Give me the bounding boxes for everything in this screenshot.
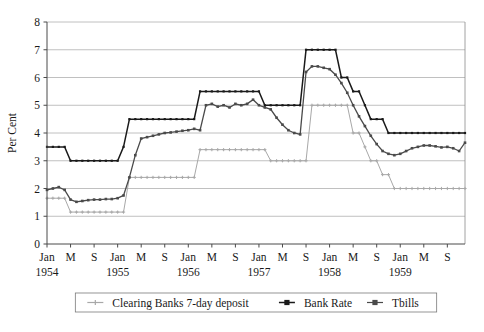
- series-marker-1: [458, 132, 460, 134]
- series-marker-1: [64, 146, 66, 148]
- series-marker-2: [275, 116, 278, 119]
- series-marker-2: [317, 65, 320, 68]
- gridlines: [47, 22, 465, 216]
- x-tick-label: Jan: [251, 251, 267, 263]
- y-tick-label: 0: [34, 238, 40, 250]
- series-marker-1: [299, 104, 301, 106]
- series-marker-2: [399, 153, 402, 156]
- series-marker-1: [270, 104, 272, 106]
- series-marker-2: [199, 129, 202, 132]
- x-year-label: 1959: [389, 266, 412, 278]
- series-marker-1: [111, 160, 113, 162]
- series-marker-2: [116, 197, 119, 200]
- series-marker-1: [128, 118, 130, 120]
- series-marker-1: [358, 90, 360, 92]
- series-marker-1: [58, 146, 60, 148]
- series-marker-2: [293, 132, 296, 135]
- series-marker-2: [81, 200, 84, 203]
- series-marker-2: [128, 176, 131, 179]
- series-marker-1: [99, 160, 101, 162]
- y-tick-label: 4: [34, 127, 40, 139]
- series-marker-2: [428, 144, 431, 147]
- series-marker-1: [246, 90, 248, 92]
- series-marker-2: [93, 198, 96, 201]
- series-marker-2: [405, 150, 408, 153]
- series-marker-2: [381, 150, 384, 153]
- series-marker-1: [217, 90, 219, 92]
- series-marker-2: [393, 154, 396, 157]
- series-marker-1: [434, 132, 436, 134]
- legend-swatch-marker: [284, 300, 289, 305]
- x-tick-label: S: [91, 251, 97, 263]
- series-marker-1: [228, 90, 230, 92]
- series-marker-2: [440, 146, 443, 149]
- series-marker-2: [216, 105, 219, 108]
- series-marker-1: [158, 118, 160, 120]
- series-marker-2: [364, 125, 367, 128]
- series-marker-1: [317, 49, 319, 51]
- legend-item-label: Tbills: [392, 297, 419, 309]
- series-marker-2: [158, 133, 161, 136]
- x-tick-label: Jan: [322, 251, 338, 263]
- series-line-2: [47, 66, 465, 201]
- series-marker-2: [75, 201, 78, 204]
- series-line-0: [47, 105, 465, 212]
- series-marker-2: [240, 104, 243, 107]
- x-tick-label: M: [419, 251, 429, 263]
- x-axis: Jan1954MSJan1955MSJan1956MSJan1957MSJan1…: [36, 244, 466, 278]
- series-marker-2: [69, 198, 72, 201]
- series-marker-1: [69, 160, 71, 162]
- series-marker-2: [422, 144, 425, 147]
- series-marker-1: [381, 118, 383, 120]
- series-marker-2: [264, 106, 267, 109]
- series-marker-2: [328, 68, 331, 71]
- series-marker-2: [258, 104, 261, 107]
- y-tick-label: 7: [34, 44, 40, 56]
- line-chart: 012345678 Jan1954MSJan1955MSJan1956MSJan…: [0, 0, 484, 332]
- x-tick-label: S: [303, 251, 309, 263]
- series-marker-2: [181, 129, 184, 132]
- series-marker-1: [164, 118, 166, 120]
- series-marker-1: [234, 90, 236, 92]
- legend-item[interactable]: Clearing Banks 7-day deposit: [87, 297, 249, 310]
- series-marker-1: [187, 118, 189, 120]
- series-marker-1: [405, 132, 407, 134]
- series-marker-2: [228, 106, 231, 109]
- series-marker-1: [423, 132, 425, 134]
- series-marker-2: [140, 137, 143, 140]
- series-marker-1: [334, 49, 336, 51]
- series-marker-2: [146, 136, 149, 139]
- x-year-label: 1956: [177, 266, 200, 278]
- series-marker-1: [193, 118, 195, 120]
- series-marker-2: [175, 130, 178, 133]
- series-marker-1: [323, 49, 325, 51]
- series-marker-1: [175, 118, 177, 120]
- series-marker-1: [75, 160, 77, 162]
- series-marker-1: [252, 90, 254, 92]
- series-marker-2: [252, 98, 255, 101]
- series-marker-2: [311, 65, 314, 68]
- series-marker-2: [370, 134, 373, 137]
- x-tick-label: S: [162, 251, 168, 263]
- series-marker-1: [52, 146, 54, 148]
- series-marker-2: [322, 66, 325, 69]
- series-marker-1: [387, 132, 389, 134]
- series-marker-2: [281, 123, 284, 126]
- series-marker-1: [117, 160, 119, 162]
- series-marker-2: [152, 134, 155, 137]
- series-marker-2: [340, 82, 343, 85]
- series-layer: [45, 49, 466, 214]
- series-marker-2: [187, 129, 190, 132]
- x-tick-label: M: [65, 251, 75, 263]
- series-marker-1: [140, 118, 142, 120]
- series-marker-2: [246, 103, 249, 106]
- series-marker-2: [57, 186, 60, 189]
- x-tick-label: M: [348, 251, 358, 263]
- series-marker-1: [205, 90, 207, 92]
- series-marker-1: [258, 90, 260, 92]
- series-marker-1: [264, 104, 266, 106]
- x-tick-label: S: [232, 251, 238, 263]
- series-marker-2: [211, 103, 214, 106]
- series-marker-2: [446, 146, 449, 149]
- x-tick-label: M: [207, 251, 217, 263]
